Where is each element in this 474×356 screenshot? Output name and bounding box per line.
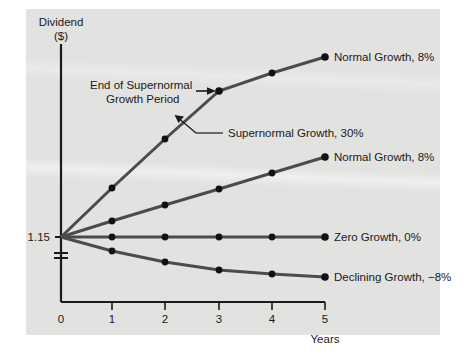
series-declining-growth-line: [61, 237, 325, 277]
data-point: [109, 248, 116, 255]
data-point: [216, 186, 223, 193]
data-point: [162, 234, 169, 241]
data-point: [109, 234, 116, 241]
series-normal-growth: [61, 153, 329, 237]
data-point: [109, 185, 116, 192]
series-declining-growth: [61, 237, 329, 281]
data-point: [269, 70, 276, 77]
x-tick-label-1: 1: [109, 313, 115, 325]
annotation-end-of-supernormal-line2: Growth Period: [106, 93, 180, 105]
x-tick-label-5: 5: [322, 313, 328, 325]
dividend-growth-chart-figure: Dividend ($) 1.15 0 1 2 3 4 5 Years Norm…: [0, 0, 474, 356]
y-axis-title-line2: ($): [54, 30, 68, 42]
series-label-declining-growth: Declining Growth, −8%: [334, 271, 451, 283]
series-zero-growth: [61, 233, 329, 241]
data-point: [162, 136, 169, 143]
data-point-endpoint: [321, 273, 329, 281]
series-label-supernormal-endpoint: Normal Growth, 8%: [334, 51, 434, 63]
annotation-arrow-icon: [196, 87, 216, 95]
data-point: [216, 267, 223, 274]
x-tick-label-0: 0: [58, 313, 64, 325]
data-point-kink-year3: [215, 87, 223, 95]
data-point: [269, 170, 276, 177]
series-label-zero-growth: Zero Growth, 0%: [334, 231, 421, 243]
series-label-normal-growth: Normal Growth, 8%: [334, 151, 434, 163]
data-point-endpoint: [321, 233, 329, 241]
y-axis-title-line1: Dividend: [39, 16, 84, 28]
data-point-endpoint: [321, 53, 329, 61]
data-point: [109, 218, 116, 225]
x-tick-label-2: 2: [162, 313, 168, 325]
chart-plot-area: Dividend ($) 1.15 0 1 2 3 4 5 Years Norm…: [0, 0, 474, 356]
annotation-supernormal-growth-label: Supernormal Growth, 30%: [228, 127, 364, 139]
annotation-end-of-supernormal: End of Supernormal Growth Period: [90, 79, 216, 105]
annotation-end-of-supernormal-line1: End of Supernormal: [90, 79, 192, 91]
x-tick-label-4: 4: [269, 313, 276, 325]
x-tick-label-3: 3: [216, 313, 222, 325]
annotation-supernormal-growth: Supernormal Growth, 30%: [175, 115, 364, 139]
data-point: [216, 234, 223, 241]
data-point: [269, 234, 276, 241]
data-point-endpoint: [321, 153, 329, 161]
data-point: [269, 271, 276, 278]
x-axis-title: Years: [311, 333, 340, 345]
y-tick-label-1-15: 1.15: [28, 231, 50, 243]
data-point: [162, 202, 169, 209]
data-point: [162, 259, 169, 266]
